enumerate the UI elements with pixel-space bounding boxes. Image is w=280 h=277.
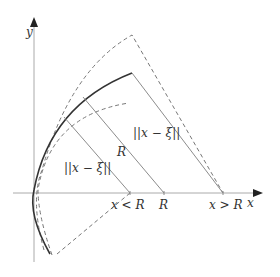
- outer-dashed-arc: [36, 35, 223, 250]
- distance-label-inner: ||x − ξ||: [64, 162, 111, 174]
- point-label-R: R: [159, 199, 168, 211]
- radius-label: R: [117, 146, 126, 158]
- point-label-x-greater-R: x > R: [209, 199, 243, 211]
- point-label-x-less-R: x < R: [111, 199, 145, 211]
- y-axis-label: y: [26, 26, 33, 38]
- x-axis-label: x: [247, 197, 254, 209]
- inner-dashed-arc: [38, 103, 129, 255]
- x-axis-arrow-icon: [253, 189, 263, 197]
- distance-label-outer: ||x − ξ||: [133, 127, 180, 139]
